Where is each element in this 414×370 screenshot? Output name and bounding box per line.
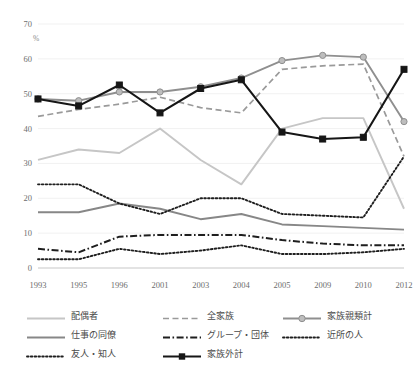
- y-tick-label: 70: [24, 19, 33, 29]
- data-point-marker: [401, 119, 407, 125]
- data-point-marker: [116, 82, 122, 88]
- legend-item-家族親類計[interactable]: 家族親類計: [282, 309, 388, 322]
- data-point-marker: [157, 110, 163, 116]
- data-point-marker: [401, 66, 407, 72]
- line-chart-svg: 010203040506070 199319951996200120032004…: [0, 0, 414, 300]
- x-axis-ticks: 1993199519962001200320042005200920102012: [30, 280, 413, 290]
- x-tick-label: 1995: [70, 280, 87, 290]
- legend-swatch-icon: [282, 329, 322, 340]
- y-tick-label: 10: [24, 228, 33, 238]
- series-4: [38, 235, 404, 252]
- series-line: [38, 235, 404, 252]
- y-tick-label: 20: [24, 193, 33, 203]
- y-tick-label: 0: [28, 263, 32, 273]
- data-point-marker: [360, 54, 366, 60]
- series-2: [35, 52, 407, 124]
- legend-item-友人・知人[interactable]: 友人・知人: [26, 347, 162, 360]
- data-point-marker: [360, 134, 366, 140]
- legend-swatch-icon: [26, 329, 66, 340]
- series-1: [38, 64, 404, 156]
- legend-item-label: 配偶者: [71, 309, 98, 322]
- series-line: [38, 64, 404, 156]
- data-point-marker: [320, 52, 326, 58]
- legend-swatch-icon: [282, 310, 322, 321]
- legend-item-仕事の同僚[interactable]: 仕事の同僚: [26, 328, 162, 341]
- x-tick-label: 2005: [274, 280, 291, 290]
- legend-swatch-icon: [26, 348, 66, 359]
- x-tick-label: 2004: [233, 280, 251, 290]
- legend-swatch-icon: [162, 310, 202, 321]
- legend-item-グループ・団体[interactable]: グループ・団体: [162, 328, 282, 341]
- chart-page: 010203040506070 199319951996200120032004…: [0, 0, 414, 370]
- x-tick-label: 2012: [396, 280, 413, 290]
- x-tick-label: 2003: [192, 280, 209, 290]
- legend-item-配偶者[interactable]: 配偶者: [26, 309, 162, 322]
- x-tick-label: 2009: [314, 280, 331, 290]
- data-point-marker: [238, 77, 244, 83]
- chart-legend: 配偶者全家族家族親類計仕事の同僚グループ・団体近所の人友人・知人家族外計: [0, 300, 414, 370]
- y-axis-ticks: 010203040506070: [24, 19, 33, 273]
- data-point-marker: [35, 96, 41, 102]
- data-point-marker: [279, 129, 285, 135]
- legend-item-label: グループ・団体: [207, 328, 269, 341]
- gridlines: [38, 24, 404, 268]
- legend-swatch-icon: [162, 329, 202, 340]
- series-layer: [35, 52, 407, 259]
- y-tick-label: 60: [24, 54, 33, 64]
- legend-swatch-icon: [162, 348, 202, 359]
- legend-item-label: 近所の人: [327, 328, 363, 341]
- data-point-marker: [76, 103, 82, 109]
- chart-plot-area: 010203040506070 199319951996200120032004…: [0, 0, 414, 300]
- data-point-marker: [320, 136, 326, 142]
- legend-item-家族外計[interactable]: 家族外計: [162, 347, 282, 360]
- x-tick-label: 1996: [111, 280, 128, 290]
- legend-item-全家族[interactable]: 全家族: [162, 309, 282, 322]
- x-tick-label: 1993: [30, 280, 47, 290]
- legend-item-label: 友人・知人: [71, 347, 116, 360]
- x-tick-label: 2010: [355, 280, 372, 290]
- data-point-marker: [157, 89, 163, 95]
- legend-item-label: 全家族: [207, 309, 234, 322]
- legend-item-label: 仕事の同僚: [71, 328, 116, 341]
- data-point-marker: [116, 89, 122, 95]
- series-7: [35, 66, 407, 142]
- data-point-marker: [198, 85, 204, 91]
- x-tick-label: 2001: [152, 280, 169, 290]
- legend-item-近所の人[interactable]: 近所の人: [282, 328, 388, 341]
- y-tick-label: 40: [24, 124, 33, 134]
- y-tick-label: 30: [24, 158, 33, 168]
- legend-grid: 配偶者全家族家族親類計仕事の同僚グループ・団体近所の人友人・知人家族外計: [26, 306, 388, 363]
- legend-item-label: 家族親類計: [327, 309, 372, 322]
- data-point-marker: [279, 58, 285, 64]
- y-tick-label: 50: [24, 89, 33, 99]
- legend-item-label: 家族外計: [207, 347, 243, 360]
- legend-swatch-icon: [26, 310, 66, 321]
- y-axis-unit-label: %: [33, 34, 39, 43]
